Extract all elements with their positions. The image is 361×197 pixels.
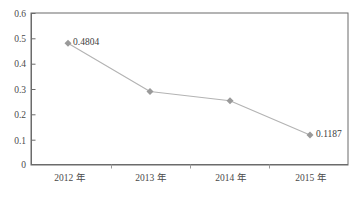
y-tick-label-2: 0.4 (14, 59, 26, 69)
y-tick-label-5: 0.1 (14, 136, 26, 146)
x-tick-label-2014: 2014 年 (215, 172, 246, 183)
x-tick-label-2013: 2013 年 (135, 172, 166, 183)
x-tick-label-2012: 2012 年 (54, 172, 85, 183)
y-tick-label-6: 0 (21, 160, 26, 170)
y-tick-label-0: 0.6 (14, 9, 26, 19)
x-axis-tick-labels: 2012 年 2013 年 2014 年 2015 年 (54, 172, 326, 183)
line-chart-figure: 0.6 0.5 0.4 0.3 0.2 0.1 0 0.4804 0.1187 … (0, 0, 361, 197)
y-tick-label-1: 0.5 (14, 34, 26, 44)
x-tick-label-2015: 2015 年 (295, 172, 326, 183)
y-tick-label-4: 0.2 (14, 110, 26, 120)
data-label-2012: 0.4804 (73, 37, 99, 47)
y-axis-tick-labels: 0.6 0.5 0.4 0.3 0.2 0.1 0 (14, 9, 26, 171)
y-tick-label-3: 0.3 (14, 85, 26, 95)
data-label-2015: 0.1187 (316, 129, 342, 139)
chart-canvas: 0.6 0.5 0.4 0.3 0.2 0.1 0 0.4804 0.1187 … (0, 0, 361, 197)
